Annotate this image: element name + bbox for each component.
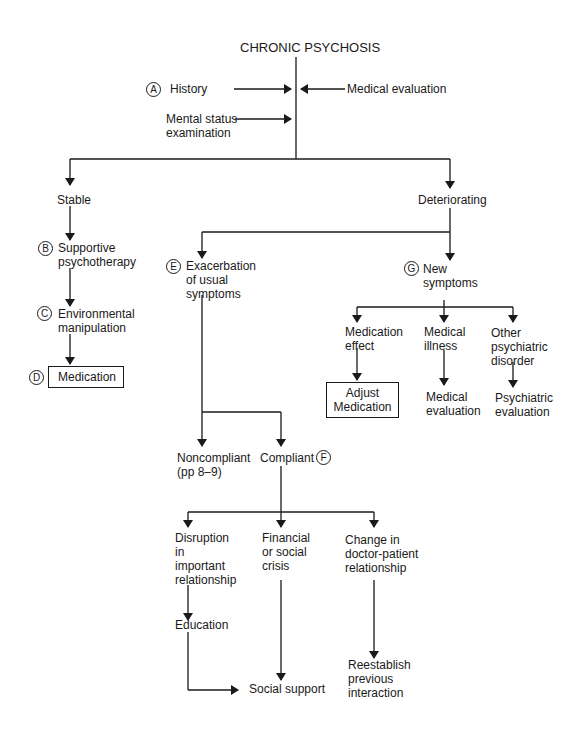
compliant-label: Compliant: [260, 451, 314, 465]
marker-g: G: [404, 261, 419, 276]
supportive-psychotherapy-label: Supportive psychotherapy: [58, 241, 136, 269]
medication-box: Medication: [48, 366, 124, 388]
deteriorating-label: Deteriorating: [418, 193, 487, 207]
medical-evaluation-label: Medical evaluation: [347, 82, 446, 96]
marker-e: E: [166, 259, 181, 274]
medical-evaluation-2-label: Medical evaluation: [426, 390, 481, 418]
new-symptoms-label: New symptoms: [423, 262, 478, 290]
education-label: Education: [175, 618, 228, 632]
financial-crisis-label: Financial or social crisis: [262, 531, 310, 573]
environmental-manipulation-label: Environmental manipulation: [58, 307, 135, 335]
medication-effect-label: Medication effect: [345, 325, 403, 353]
mental-status-label: Mental status examination: [166, 112, 237, 140]
marker-b: B: [38, 241, 53, 256]
stable-label: Stable: [57, 193, 91, 207]
chart-title: CHRONIC PSYCHOSIS: [240, 41, 380, 55]
history-label: History: [170, 82, 207, 96]
noncompliant-label: Noncompliant (pp 8–9): [177, 451, 250, 479]
disruption-label: Disruption in important relationship: [175, 531, 236, 587]
exacerbation-label: Exacerbation of usual symptoms: [186, 259, 256, 301]
marker-f: F: [316, 450, 331, 465]
reestablish-label: Reestablish previous interaction: [348, 658, 411, 700]
doctor-patient-label: Change in doctor-patient relationship: [345, 533, 418, 575]
other-disorder-label: Other psychiatric disorder: [491, 326, 548, 368]
adjust-medication-box: Adjust Medication: [326, 382, 399, 418]
marker-a: A: [146, 82, 161, 97]
social-support-label: Social support: [249, 682, 325, 696]
marker-d: D: [29, 370, 44, 385]
medical-illness-label: Medical illness: [424, 325, 465, 353]
psychiatric-evaluation-label: Psychiatric evaluation: [495, 391, 553, 419]
marker-c: C: [37, 306, 52, 321]
